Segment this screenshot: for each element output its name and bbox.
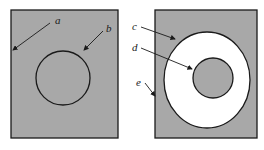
label-e: e bbox=[136, 76, 141, 88]
label-b: b bbox=[106, 22, 112, 34]
label-c: c bbox=[132, 20, 137, 32]
diagram: a b c d e bbox=[0, 0, 264, 150]
left-region-a bbox=[11, 10, 118, 138]
right-panel: c d e bbox=[132, 10, 257, 138]
inner-disk-boundary-d bbox=[193, 58, 233, 98]
label-d: d bbox=[132, 41, 138, 53]
leader-e bbox=[145, 83, 155, 96]
left-panel: a b bbox=[11, 10, 118, 138]
label-a: a bbox=[55, 14, 61, 26]
